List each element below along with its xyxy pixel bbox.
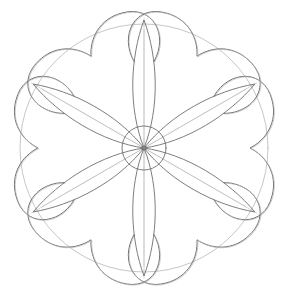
- heart-petal: [214, 76, 274, 220]
- heart-petal: [14, 76, 74, 220]
- heart-petal: [128, 183, 260, 285]
- heart-petal-sketch: [215, 77, 275, 221]
- leaf-midrib: [144, 148, 246, 207]
- flower-sketch: [0, 0, 286, 298]
- heart-petal-sketch: [29, 12, 161, 114]
- heart-petal: [28, 12, 160, 114]
- heart-petal: [128, 12, 260, 114]
- heart-petal: [28, 183, 160, 285]
- heart-petal-sketch: [29, 183, 161, 285]
- inner-leaves: [33, 20, 255, 276]
- heart-petal-sketch: [129, 183, 261, 285]
- leaf-midrib: [144, 89, 246, 148]
- leaf-midrib: [42, 89, 144, 148]
- leaf-midrib: [42, 148, 144, 207]
